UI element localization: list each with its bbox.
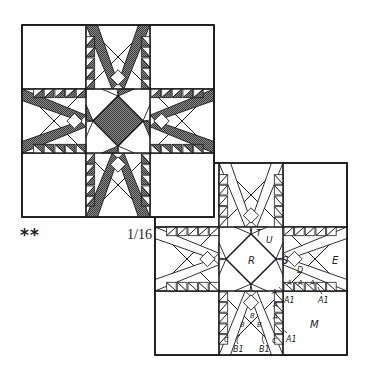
- piece-label-m: M: [310, 319, 319, 330]
- piece-label-a1: A1: [317, 296, 329, 305]
- quilt-svg: TURSEDAAAA1A1AAAMBBBCCB1B1A1: [0, 0, 370, 374]
- piece-label-e: E: [332, 255, 339, 266]
- piece-label-b: B: [240, 321, 245, 329]
- piece-label-a: A: [286, 279, 292, 287]
- difficulty-marks: **: [20, 225, 40, 245]
- piece-label-r: R: [248, 255, 255, 266]
- piece-label-c: C: [224, 336, 229, 344]
- piece-label-b1: B1: [259, 345, 270, 354]
- piece-label-a: A: [309, 279, 315, 287]
- piece-label-a: A: [297, 279, 303, 287]
- piece-label-s: S: [282, 255, 289, 266]
- shaded-star-block: [22, 25, 214, 217]
- scale-label: 1/16: [127, 227, 152, 243]
- piece-label-b: B: [257, 321, 262, 329]
- piece-label-a1: A1: [285, 335, 297, 344]
- piece-label-d: D: [297, 266, 303, 275]
- piece-label-a1: A1: [283, 296, 295, 305]
- piece-label-b: B: [250, 312, 255, 320]
- piece-label-c: C: [272, 337, 277, 345]
- quilt-diagram: TURSEDAAAA1A1AAAMBBBCCB1B1A1: [0, 0, 370, 374]
- piece-label-b1: B1: [233, 345, 244, 354]
- piece-label-a: A: [272, 301, 278, 309]
- piece-label-u: U: [266, 235, 273, 245]
- piece-label-a: A: [271, 288, 277, 296]
- piece-label-a: A: [272, 313, 278, 321]
